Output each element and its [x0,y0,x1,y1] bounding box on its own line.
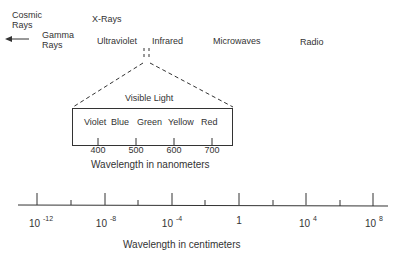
tick-exp: -4 [176,215,182,222]
nm-tick-400: 400 [90,145,105,155]
cm-tick-1e8: 108 [365,215,383,229]
infrared-label: Infrared [152,36,183,46]
nm-axis-label: Wavelength in nanometers [91,160,210,170]
tick-base: 10 [299,218,310,229]
gamma-rays-label: Gamma Rays [42,30,74,50]
nm-tick-500: 500 [128,145,143,155]
color-red: Red [201,117,218,127]
cosmic-rays-label: Cosmic Rays [12,10,42,30]
tick-exp: 4 [313,215,317,222]
visible-light-title: Visible Light [125,93,173,103]
color-violet: Violet [84,117,106,127]
tick-exp: -12 [43,215,53,222]
tick-exp: 8 [379,215,383,222]
x-rays-label: X-Rays [92,14,122,24]
cosmic-rays-line2: Rays [12,20,42,30]
nm-tick-700: 700 [204,145,219,155]
cm-tick-1e-8: 10-8 [96,215,116,229]
tick-base: 10 [96,218,107,229]
gamma-rays-line2: Rays [42,40,74,50]
gamma-rays-line1: Gamma [42,30,74,40]
microwaves-label: Microwaves [213,36,261,46]
color-blue: Blue [111,117,129,127]
nm-tick-600: 600 [166,145,181,155]
cosmic-rays-line1: Cosmic [12,10,42,20]
cm-tick-1e-12: 10-12 [29,215,53,229]
cm-tick-1e-4: 10-4 [162,215,182,229]
cm-tick-1e4: 104 [299,215,317,229]
tick-base: 10 [29,218,40,229]
ultraviolet-label: Ultraviolet [97,36,137,46]
tick-base: 1 [236,215,242,226]
tick-exp: -8 [110,215,116,222]
color-green: Green [137,117,162,127]
cm-tick-1: 1 [236,215,242,226]
color-yellow: Yellow [168,117,194,127]
tick-base: 10 [365,218,376,229]
tick-base: 10 [162,218,173,229]
radio-label: Radio [300,37,324,47]
cm-axis-label: Wavelength in centimeters [123,240,240,250]
